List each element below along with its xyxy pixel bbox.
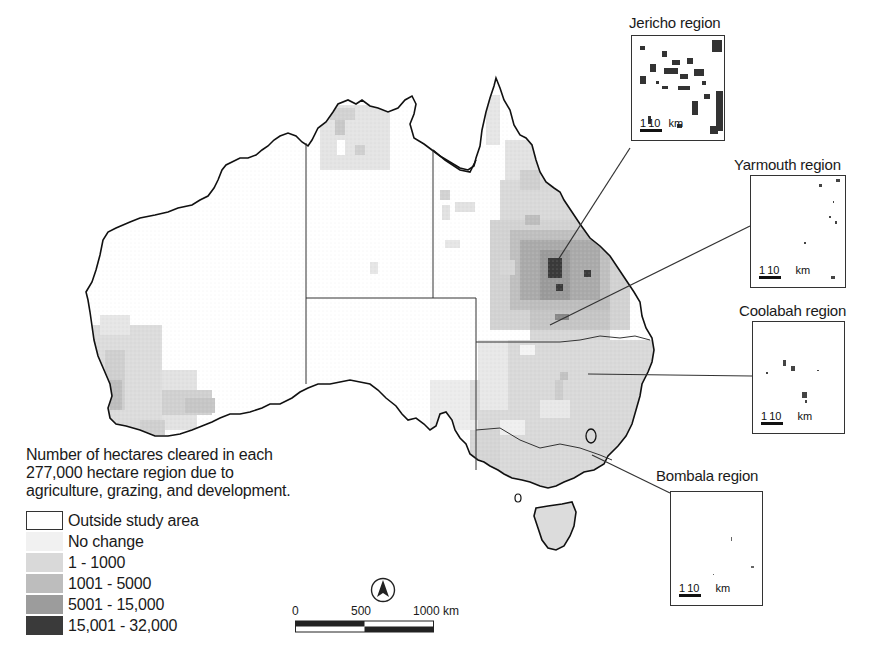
inset-title-bombala: Bombala region	[656, 467, 758, 484]
legend-item-outside: Outside study area	[26, 510, 356, 531]
inset-scale-yarmouth: 110km	[759, 264, 810, 279]
legend-swatch	[26, 595, 63, 614]
inset-title-yarmouth: Yarmouth region	[734, 156, 841, 173]
north-arrow-icon	[370, 577, 396, 603]
scale-bar-graphic	[295, 620, 435, 634]
inset-yarmouth: 110km	[750, 175, 846, 288]
legend-item-1-1000: 1 - 1000	[26, 552, 356, 573]
inset-jericho: 110km	[631, 35, 725, 141]
inset-scale-bombala: 110km	[679, 582, 730, 597]
legend-swatch	[26, 553, 63, 572]
legend-swatch	[26, 511, 63, 530]
legend-swatch	[26, 532, 63, 551]
legend-item-1001-5000: 1001 - 5000	[26, 573, 356, 594]
inset-bombala: 110km	[670, 491, 763, 606]
scale-bar: 0 500 1000 km	[295, 604, 495, 638]
tasmania	[534, 502, 576, 550]
legend-swatch	[26, 574, 63, 593]
inset-coolabah: 110km	[752, 321, 845, 434]
legend-title: Number of hectares cleared in each 277,0…	[26, 446, 356, 500]
clearing-cells	[85, 80, 685, 500]
inset-scale-jericho: 110km	[640, 117, 683, 132]
inset-title-jericho: Jericho region	[629, 14, 720, 31]
inset-scale-coolabah: 110km	[761, 410, 812, 425]
legend-item-no-change: No change	[26, 531, 356, 552]
inset-title-coolabah: Coolabah region	[739, 302, 846, 319]
legend-swatch	[26, 616, 63, 635]
